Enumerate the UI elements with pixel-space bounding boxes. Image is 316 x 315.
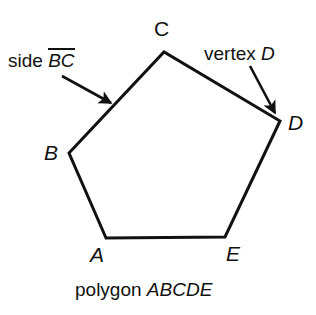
side-bc-annotation: side BC	[8, 48, 75, 70]
vertex-d-annotation: vertex D	[204, 44, 275, 63]
side-bc-arrow-icon	[62, 76, 111, 103]
figure-caption: polygon ABCDE	[75, 280, 212, 299]
polygon-shape	[69, 52, 280, 238]
vertex-label-c: C	[154, 18, 169, 39]
vertex-label-b: B	[44, 142, 58, 163]
side-bc-segment-label: BC	[48, 48, 74, 70]
caption-polygon-name: ABCDE	[147, 279, 212, 300]
vertex-d-prefix: vertex	[204, 43, 261, 64]
vertex-d-name: D	[261, 43, 275, 64]
vertex-label-d: D	[288, 112, 303, 133]
vertex-label-e: E	[226, 243, 240, 264]
caption-prefix: polygon	[75, 279, 147, 300]
vertex-label-a: A	[90, 244, 104, 265]
polygon-figure: side BC vertex D A B C D E polygon ABCDE	[0, 0, 316, 315]
side-bc-prefix: side	[8, 50, 48, 71]
